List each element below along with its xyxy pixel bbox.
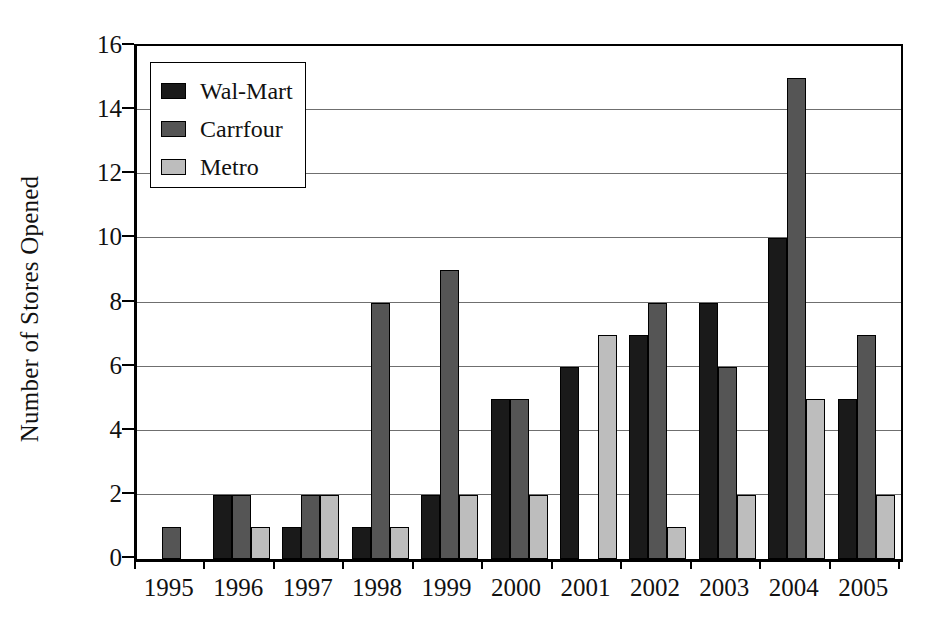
x-tick-label: 2004 <box>769 575 819 600</box>
bar <box>510 399 529 559</box>
legend-swatch-walmart-icon <box>161 83 186 99</box>
y-tick-label: 10 <box>78 224 122 249</box>
y-tick-mark <box>122 300 134 302</box>
bar <box>320 495 339 559</box>
bar <box>838 399 857 559</box>
y-tick-label: 4 <box>78 416 122 441</box>
legend-item: Wal-Mart <box>161 72 295 110</box>
legend-item: Metro <box>161 148 295 186</box>
bar <box>629 335 648 559</box>
bar-chart: Number of Stores Opened 0246810121416 19… <box>0 0 942 618</box>
bar <box>251 527 270 559</box>
legend-swatch-metro-icon <box>161 159 186 175</box>
bar <box>787 78 806 559</box>
bar <box>491 399 510 559</box>
bar <box>768 238 787 559</box>
y-axis-title: Number of Stores Opened <box>0 0 60 618</box>
bar <box>301 495 320 559</box>
legend-item-label: Wal-Mart <box>200 79 293 103</box>
y-tick-label: 2 <box>78 480 122 505</box>
y-tick-label: 0 <box>78 545 122 570</box>
y-tick-label: 16 <box>78 32 122 57</box>
bar <box>352 527 371 559</box>
y-tick-label: 6 <box>78 352 122 377</box>
x-tick-label: 2001 <box>560 575 610 600</box>
plot-area: Wal-MartCarrfourMetro <box>134 44 903 562</box>
x-tick-label: 2002 <box>630 575 680 600</box>
bar <box>282 527 301 559</box>
legend-swatch-carrfour-icon <box>161 121 186 137</box>
bar <box>162 527 181 559</box>
bar <box>718 367 737 559</box>
y-tick-mark <box>122 107 134 109</box>
legend: Wal-MartCarrfourMetro <box>150 62 306 188</box>
y-tick-label: 8 <box>78 288 122 313</box>
y-tick-mark <box>122 171 134 173</box>
bar <box>598 335 617 559</box>
x-tick-label: 1995 <box>144 575 194 600</box>
bar <box>667 527 686 559</box>
x-tick-label: 1996 <box>213 575 263 600</box>
x-tick-label: 1997 <box>283 575 333 600</box>
y-tick-mark <box>122 235 134 237</box>
bar <box>737 495 756 559</box>
bar <box>232 495 251 559</box>
x-tick-label: 1998 <box>352 575 402 600</box>
bar <box>371 303 390 560</box>
y-tick-mark <box>122 364 134 366</box>
bar <box>699 303 718 560</box>
x-tick-label: 1999 <box>422 575 472 600</box>
bar <box>857 335 876 559</box>
x-tick-label: 2003 <box>699 575 749 600</box>
y-tick-mark <box>122 43 134 45</box>
y-tick-mark <box>122 492 134 494</box>
legend-item: Carrfour <box>161 110 295 148</box>
y-tick-mark <box>122 428 134 430</box>
bar <box>390 527 409 559</box>
bar <box>560 367 579 559</box>
y-tick-label: 14 <box>78 96 122 121</box>
bar <box>529 495 548 559</box>
legend-item-label: Carrfour <box>200 117 283 141</box>
bar <box>440 270 459 559</box>
bar <box>421 495 440 559</box>
legend-item-label: Metro <box>200 155 259 179</box>
x-tick-label: 2005 <box>838 575 888 600</box>
y-tick-label: 12 <box>78 160 122 185</box>
bar <box>459 495 478 559</box>
bar <box>876 495 895 559</box>
y-tick-mark <box>122 556 134 558</box>
bar <box>806 399 825 559</box>
x-tick-label: 2000 <box>491 575 541 600</box>
bar <box>648 303 667 560</box>
bar <box>213 495 232 559</box>
